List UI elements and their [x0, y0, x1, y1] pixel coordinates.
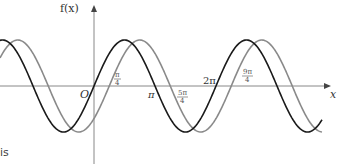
tick-label-2pi: 2π [203, 75, 216, 86]
svg-text:π: π [115, 71, 120, 79]
svg-text:4: 4 [245, 76, 250, 84]
tick-label-pi: π [147, 89, 155, 100]
y-axis-label: f(x) [60, 2, 79, 15]
origin-label: O [80, 88, 89, 101]
tick-label-pi-over-4: π 4 [114, 71, 121, 87]
svg-text:4: 4 [180, 97, 185, 105]
tick-label-5pi-over-4: 5π 4 [177, 89, 188, 105]
svg-text:9π: 9π [243, 68, 252, 76]
svg-text:5π: 5π [178, 89, 187, 97]
function-graph: f(x) x O π 2π π 4 5π 4 9π 4 [0, 0, 339, 164]
svg-text:4: 4 [115, 79, 120, 87]
y-axis-arrow-icon [91, 5, 97, 12]
x-axis-label: x [330, 88, 337, 101]
cropped-caption-text: is [0, 146, 9, 159]
tick-label-9pi-over-4: 9π 4 [242, 68, 253, 84]
